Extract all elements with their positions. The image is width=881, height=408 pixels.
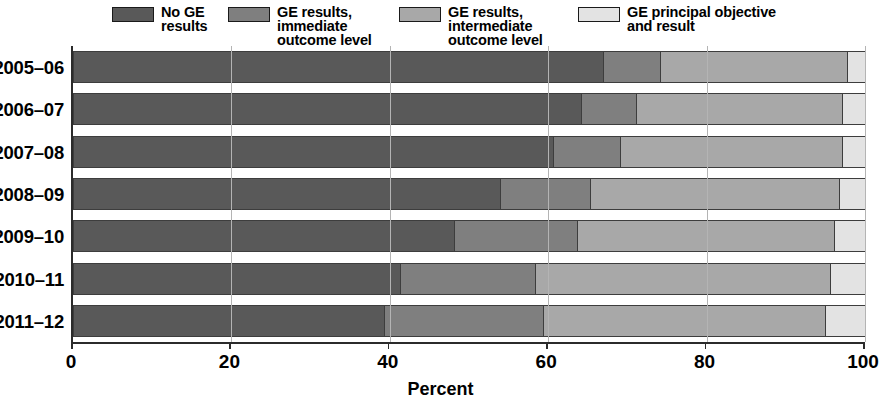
bar-row <box>73 220 865 252</box>
stacked-bar-2005–06 <box>73 51 866 83</box>
x-tick-40 <box>388 342 390 349</box>
y-axis-label-3: 2008–09 <box>0 184 64 206</box>
bar-segment-series-3 <box>543 305 826 337</box>
gridline-100 <box>865 46 866 342</box>
bar-segment-series-2 <box>454 220 578 252</box>
y-axis-label-2: 2007–08 <box>0 142 64 164</box>
x-axis-line <box>71 342 865 344</box>
x-axis-title: Percent <box>0 379 881 400</box>
stacked-bar-2007–08 <box>73 136 866 168</box>
x-tick-20 <box>229 342 231 349</box>
bar-row <box>73 136 865 168</box>
bar-row <box>73 263 865 295</box>
bar-segment-series-1 <box>73 220 455 252</box>
bar-segment-series-4 <box>834 220 866 252</box>
x-axis-label-4: 80 <box>675 351 735 373</box>
gridline-80 <box>707 46 708 342</box>
stacked-bar-2008–09 <box>73 178 866 210</box>
stacked-bar-2006–07 <box>73 93 866 125</box>
x-tick-100 <box>863 342 865 349</box>
bar-segment-series-1 <box>73 136 554 168</box>
bar-row <box>73 305 865 337</box>
bar-segment-series-4 <box>839 178 866 210</box>
bar-segment-series-3 <box>636 93 843 125</box>
stacked-bar-2011–12 <box>73 305 866 337</box>
x-axis-label-3: 60 <box>516 351 576 373</box>
x-axis-label-2: 40 <box>358 351 418 373</box>
legend-item-label: No GE results <box>161 5 208 33</box>
bar-segment-series-2 <box>603 51 661 83</box>
legend-swatch-icon-2 <box>399 7 441 22</box>
chart-legend: No GE resultsGE results, immediate outco… <box>112 5 872 37</box>
plot-area <box>71 46 865 342</box>
bar-segment-series-2 <box>400 263 536 295</box>
y-axis-label-6: 2011–12 <box>0 311 64 333</box>
legend-item-2[interactable]: GE results, intermediate outcome level <box>399 5 578 47</box>
bar-row <box>73 178 865 210</box>
y-axis-label-0: 2005–06 <box>0 57 64 79</box>
bar-row <box>73 93 865 125</box>
legend-item-label: GE results, intermediate outcome level <box>448 5 578 47</box>
y-axis-label-1: 2006–07 <box>0 99 64 121</box>
bar-rows <box>73 46 865 342</box>
legend-swatch-icon-0 <box>112 7 154 22</box>
y-axis-labels: 2005–062006–072007–082008–092009–102010–… <box>0 46 64 342</box>
bar-segment-series-1 <box>73 178 501 210</box>
bar-segment-series-4 <box>847 51 866 83</box>
gridline-20 <box>231 46 232 342</box>
legend-item-label: GE principal objective and result <box>627 5 776 33</box>
bar-segment-series-3 <box>535 263 832 295</box>
stacked-bar-2010–11 <box>73 263 866 295</box>
bar-segment-series-2 <box>553 136 622 168</box>
bar-segment-series-4 <box>830 263 866 295</box>
x-tick-60 <box>546 342 548 349</box>
x-axis-label-0: 0 <box>41 351 101 373</box>
legend-swatch-icon-3 <box>578 7 620 22</box>
legend-item-label: GE results, immediate outcome level <box>277 5 399 47</box>
bar-segment-series-1 <box>73 93 582 125</box>
legend-swatch-icon-1 <box>228 7 270 22</box>
y-axis-label-5: 2010–11 <box>0 269 64 291</box>
bar-segment-series-4 <box>842 136 866 168</box>
bar-row <box>73 51 865 83</box>
gridline-40 <box>390 46 391 342</box>
bar-segment-series-2 <box>384 305 544 337</box>
x-axis-label-1: 20 <box>199 351 259 373</box>
bar-segment-series-2 <box>500 178 591 210</box>
gridline-60 <box>548 46 549 342</box>
x-axis-label-5: 100 <box>833 351 881 373</box>
legend-item-3[interactable]: GE principal objective and result <box>578 5 778 33</box>
bar-segment-series-3 <box>620 136 843 168</box>
legend-item-1[interactable]: GE results, immediate outcome level <box>228 5 399 47</box>
bar-segment-series-1 <box>73 305 385 337</box>
bar-segment-series-4 <box>825 305 867 337</box>
legend-item-0[interactable]: No GE results <box>112 5 228 33</box>
bar-segment-series-1 <box>73 263 401 295</box>
stacked-bar-2009–10 <box>73 220 866 252</box>
y-axis-label-4: 2009–10 <box>0 226 64 248</box>
stacked-bar-chart: No GE resultsGE results, immediate outco… <box>0 0 881 408</box>
x-tick-80 <box>705 342 707 349</box>
bar-segment-series-1 <box>73 51 604 83</box>
bar-segment-series-3 <box>590 178 840 210</box>
bar-segment-series-2 <box>581 93 638 125</box>
x-tick-0 <box>71 342 73 349</box>
bar-segment-series-4 <box>842 93 866 125</box>
bar-segment-series-3 <box>660 51 848 83</box>
